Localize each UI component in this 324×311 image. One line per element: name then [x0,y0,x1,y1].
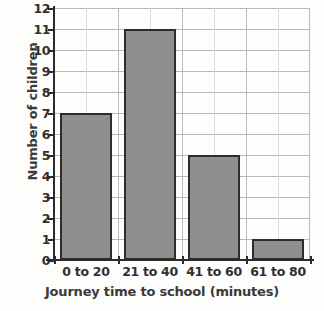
y-axis-tick-label: 10 [22,43,50,58]
x-axis-tick-mark [118,256,120,264]
y-axis-tick-mark [48,176,55,178]
x-axis-line [46,259,314,261]
y-axis-tick-label: 4 [22,169,50,184]
grid-line-vertical [309,8,310,260]
x-axis-tick-mark [246,256,248,264]
y-axis-tick-label: 11 [22,22,50,37]
y-axis-tick-mark [48,8,55,10]
y-axis-tick-label: 9 [22,64,50,79]
y-axis-tick-mark [48,197,55,199]
y-axis-tick-mark [48,134,55,136]
y-axis-tick-label: 3 [22,190,50,205]
y-axis-tick-label: 2 [22,211,50,226]
y-axis-tick-label: 8 [22,85,50,100]
x-axis-tick-labels: 0 to 2021 to 4041 to 6061 to 80 [54,264,310,282]
x-axis-tick-mark [54,256,56,264]
y-axis-tick-label: 1 [22,232,50,247]
x-axis-tick-label: 21 to 40 [118,264,182,279]
y-axis-tick-label: 12 [22,1,50,16]
y-axis-tick-mark [48,113,55,115]
y-axis-tick-mark [48,50,55,52]
x-axis-tick-label: 61 to 80 [246,264,310,279]
plot-area [54,8,310,260]
grid-line-vertical [118,8,119,260]
y-axis-tick-mark [48,92,55,94]
grid-line-vertical [246,8,247,260]
y-axis-tick-mark [48,155,55,157]
y-axis-tick-label: 6 [22,127,50,142]
y-axis-tick-mark [48,71,55,73]
x-axis-tick-mark [182,256,184,264]
x-axis-tick-label: 41 to 60 [182,264,246,279]
bar [60,113,111,260]
y-axis-tick-mark [48,239,55,241]
bar [188,155,239,260]
grid-line-vertical-minor [278,8,279,260]
y-axis-tick-label: 5 [22,148,50,163]
y-axis-tick-mark [48,218,55,220]
x-axis-title: Journey time to school (minutes) [0,284,324,299]
bar [252,239,303,260]
x-axis-tick-label: 0 to 20 [54,264,118,279]
bar-chart: Number of children 0123456789101112 0 to… [0,0,324,311]
grid-line-vertical [182,8,183,260]
y-axis-tick-mark [48,29,55,31]
bar [124,29,175,260]
x-axis-tick-mark [310,256,312,264]
y-axis-tick-labels: 0123456789101112 [22,8,50,260]
y-axis-tick-label: 7 [22,106,50,121]
